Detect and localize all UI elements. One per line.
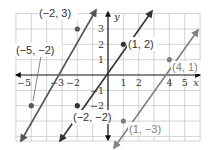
x-tick: 1 [120, 77, 126, 88]
y-axis-label: y [113, 11, 120, 22]
y-tick: −2 [90, 100, 104, 111]
x-tick: 5 [182, 77, 188, 88]
y-tick: 1 [98, 54, 104, 65]
point-label-a1: (−2, 3) [39, 7, 71, 19]
point-label-c2: (1, −3) [129, 123, 161, 135]
point-label-c1: (4, 1) [172, 61, 198, 73]
point-label-b1: (1, 2) [128, 38, 154, 50]
point-b2 [75, 103, 80, 108]
x-tick: 4 [166, 77, 172, 88]
x-tick: 2 [136, 77, 142, 88]
point-a2 [29, 103, 34, 108]
leader-line [33, 56, 41, 101]
point-b1 [121, 42, 126, 47]
y-tick: 3 [98, 23, 104, 34]
x-axis-label: x [193, 77, 199, 88]
point-a1 [75, 26, 80, 31]
coordinate-plane: −5 −3 −2 1 2 4 5 x 3 2 1 −1 −2 y (−2, 3)… [0, 0, 213, 150]
y-tick-labels: 3 2 1 −1 −2 y [90, 11, 120, 111]
y-tick: 2 [98, 39, 104, 50]
x-tick: −2 [66, 77, 80, 88]
point-label-a2: (−5, −2) [16, 44, 55, 56]
point-label-b2: (−2, −2) [73, 111, 112, 123]
x-tick: −5 [17, 77, 31, 88]
point-c2 [121, 119, 126, 124]
